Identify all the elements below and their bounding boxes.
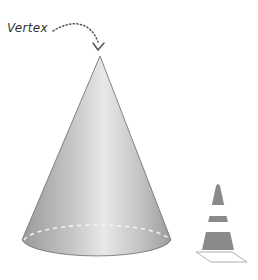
cone-diagram: Vertex: [0, 0, 258, 280]
vertex-label: Vertex: [7, 21, 48, 35]
traffic-cone-stripe-top: [208, 205, 228, 216]
traffic-cone-example: [196, 184, 247, 262]
main-cone: [22, 56, 171, 256]
vertex-arrow: [53, 24, 104, 50]
diagram-canvas: [0, 0, 258, 280]
traffic-cone-stripe-bottom: [205, 222, 231, 232]
